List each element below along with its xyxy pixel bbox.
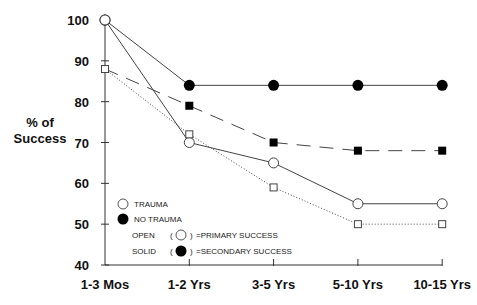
x-tick-label: 5-10 Yrs bbox=[333, 277, 383, 292]
legend: TRAUMANO TRAUMAOPEN()=PRIMARY SUCCESSSOL… bbox=[118, 199, 292, 257]
data-point bbox=[269, 158, 279, 168]
y-tick-label: 100 bbox=[67, 13, 89, 28]
legend-paren: ) bbox=[190, 231, 193, 240]
series-filled-circle bbox=[100, 15, 448, 91]
y-tick-label: 90 bbox=[75, 54, 89, 69]
data-point bbox=[353, 199, 363, 209]
legend-filled-circle-icon bbox=[176, 246, 187, 257]
series-open-circle bbox=[100, 15, 447, 209]
y-tick-label: 60 bbox=[75, 176, 89, 191]
data-point bbox=[270, 139, 278, 147]
data-point bbox=[437, 80, 448, 91]
y-tick-label: 40 bbox=[75, 258, 89, 273]
data-point bbox=[354, 221, 361, 228]
y-axis-label: % ofSuccess bbox=[14, 115, 67, 146]
series-filled-square bbox=[101, 65, 446, 155]
legend-primary-success: =PRIMARY SUCCESS bbox=[196, 231, 278, 240]
data-point bbox=[185, 102, 193, 110]
legend-secondary-success: =SECONDARY SUCCESS bbox=[196, 247, 292, 256]
data-series bbox=[100, 15, 448, 228]
data-point bbox=[352, 80, 363, 91]
data-point bbox=[268, 80, 279, 91]
legend-filled-circle-icon bbox=[118, 214, 129, 225]
x-tick-label: 1-2 Yrs bbox=[168, 277, 211, 292]
series-line bbox=[105, 20, 442, 85]
y-axis-label-line: % of bbox=[26, 115, 54, 130]
y-tick-label: 70 bbox=[75, 136, 89, 151]
data-point bbox=[186, 131, 193, 138]
legend-no-trauma: NO TRAUMA bbox=[134, 215, 183, 224]
legend-open-label: OPEN bbox=[132, 231, 155, 240]
legend-trauma: TRAUMA bbox=[134, 200, 168, 209]
series-line bbox=[105, 20, 442, 204]
data-point bbox=[102, 66, 109, 73]
legend-open-circle-icon bbox=[118, 199, 128, 209]
y-tick-label: 80 bbox=[75, 95, 89, 110]
data-point bbox=[270, 184, 277, 191]
legend-paren: ( bbox=[170, 247, 173, 256]
x-tick-label: 3-5 Yrs bbox=[252, 277, 295, 292]
x-tick-label: 1-3 Mos bbox=[81, 277, 129, 292]
x-tick-label: 10-15 Yrs bbox=[413, 277, 471, 292]
data-point bbox=[100, 15, 110, 25]
legend-open-circle-icon bbox=[176, 230, 186, 240]
data-point bbox=[439, 221, 446, 228]
legend-solid-label: SOLID bbox=[132, 247, 156, 256]
data-point bbox=[184, 138, 194, 148]
data-point bbox=[184, 80, 195, 91]
data-point bbox=[354, 147, 362, 155]
y-tick-label: 50 bbox=[75, 217, 89, 232]
data-point bbox=[438, 147, 446, 155]
success-rate-chart: 4050607080901001-3 Mos1-2 Yrs3-5 Yrs5-10… bbox=[0, 0, 477, 305]
y-axis-label-line: Success bbox=[14, 131, 67, 146]
legend-paren: ( bbox=[170, 231, 173, 240]
data-point bbox=[437, 199, 447, 209]
legend-paren: ) bbox=[190, 247, 193, 256]
